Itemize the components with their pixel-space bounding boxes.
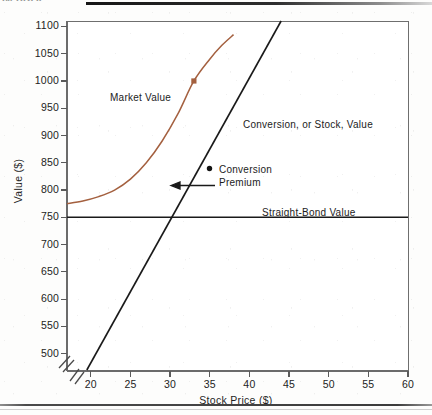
annotation-conversion-premium: Conversion Premium [219, 163, 272, 189]
conversion-premium-dot [207, 166, 212, 171]
scanned-page: IN PROF. 5005506006507007508008509009501… [0, 0, 432, 415]
annotation-conversion-stock-value: Conversion, or Stock, Value [243, 119, 373, 130]
annotation-straight-bond-value: Straight-Bond Value [262, 207, 356, 218]
chart-plot-overlay [0, 0, 432, 415]
conversion-stock-value-line [87, 21, 281, 370]
y-axis-break-marks [59, 356, 84, 384]
market-value-curve [67, 35, 234, 204]
page-bottom-rule-secondary [0, 409, 432, 410]
conversion-premium-line-1: Conversion [219, 163, 272, 176]
market-value-data-point-marker [191, 78, 196, 83]
annotation-market-value: Market Value [110, 92, 171, 103]
page-bottom-rule [0, 404, 432, 406]
conversion-premium-line-2: Premium [219, 176, 272, 189]
conversion-premium-arrow [171, 182, 215, 189]
